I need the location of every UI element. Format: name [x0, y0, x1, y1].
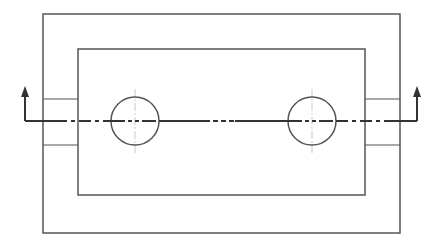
section-drawing: [0, 0, 442, 248]
background: [0, 0, 442, 248]
